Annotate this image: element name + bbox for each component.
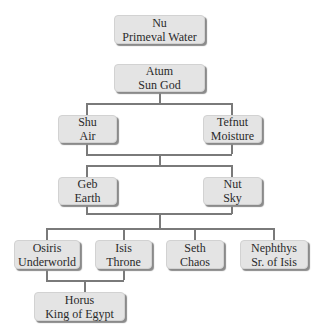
connector-geb-nut-children: [86, 165, 232, 167]
node-title: Underworld: [18, 255, 76, 269]
connector-union2-down: [159, 213, 161, 228]
connector-isis-down: [123, 269, 125, 280]
node-name: Nut: [224, 177, 242, 191]
connector-to-isis: [123, 228, 125, 240]
node-title: Moisture: [211, 129, 254, 143]
connector-shu-down: [86, 143, 88, 154]
node-title: Sky: [223, 191, 242, 205]
node-title: Primeval Water: [122, 30, 196, 44]
connector-atum-down: [159, 92, 161, 103]
node-title: King of Egypt: [45, 307, 114, 321]
node-name: Geb: [78, 177, 98, 191]
node-title: Earth: [75, 191, 101, 205]
connector-tefnut-down: [231, 143, 233, 154]
node-title: Chaos: [180, 255, 210, 269]
node-title: Air: [80, 129, 96, 143]
connector-to-shu: [86, 103, 88, 115]
node-title: Throne: [106, 255, 141, 269]
node-isis: Isis Throne: [95, 240, 152, 269]
connector-to-nephthys: [273, 228, 275, 240]
connector-gen4-children: [46, 228, 274, 230]
node-name: Nu: [152, 16, 167, 30]
node-nu: Nu Primeval Water: [114, 15, 205, 44]
connector-union1-down: [159, 154, 161, 165]
node-name: Horus: [65, 293, 94, 307]
connector-to-nut: [231, 165, 233, 177]
node-horus: Horus King of Egypt: [34, 292, 125, 321]
node-name: Isis: [115, 241, 132, 255]
connector-to-geb: [86, 165, 88, 177]
connector-to-osiris: [46, 228, 48, 240]
node-title: Sun God: [138, 78, 180, 92]
node-osiris: Osiris Underworld: [14, 240, 80, 269]
node-title: Sr. of Isis: [251, 255, 297, 269]
node-name: Shu: [78, 115, 97, 129]
node-name: Atum: [146, 64, 173, 78]
node-shu: Shu Air: [58, 115, 117, 143]
node-geb: Geb Earth: [58, 177, 117, 205]
connector-to-horus: [84, 280, 86, 292]
node-tefnut: Tefnut Moisture: [203, 115, 262, 143]
connector-to-tefnut: [231, 103, 233, 115]
node-seth: Seth Chaos: [166, 240, 224, 269]
connector-to-seth: [194, 228, 196, 240]
node-atum: Atum Sun God: [114, 64, 205, 92]
connector-atum-children: [86, 103, 232, 105]
node-nut: Nut Sky: [203, 177, 262, 205]
node-name: Seth: [184, 241, 205, 255]
connector-osiris-down: [46, 269, 48, 280]
node-name: Nephthys: [251, 241, 297, 255]
node-name: Osiris: [33, 241, 62, 255]
node-name: Tefnut: [217, 115, 248, 129]
node-nephthys: Nephthys Sr. of Isis: [240, 240, 308, 269]
